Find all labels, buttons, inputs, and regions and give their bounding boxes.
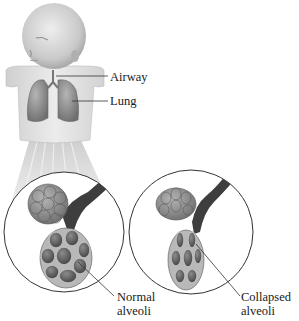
collapsed-alveoli-label-line1: Collapsed bbox=[241, 290, 291, 304]
normal-alveoli-label-line2: alveoli bbox=[117, 304, 155, 318]
collapsed-alveoli-label-line2: alveoli bbox=[241, 304, 291, 318]
normal-alveoli-label: Normal alveoli bbox=[117, 290, 155, 318]
collapsed-alveolar-sac-upper bbox=[156, 188, 196, 220]
inflated-alveolar-sac-upper bbox=[28, 184, 68, 224]
airway-label: Airway bbox=[110, 70, 148, 84]
illustration bbox=[0, 0, 299, 321]
infant-head bbox=[22, 3, 86, 69]
collapsed-alveolar-sac-lower bbox=[168, 230, 204, 290]
infant-body bbox=[6, 66, 104, 143]
normal-alveoli-label-line1: Normal bbox=[117, 290, 155, 304]
inflated-alveolar-sac-lower bbox=[40, 228, 92, 288]
normal-alveoli-panel bbox=[4, 172, 124, 296]
lung-label: Lung bbox=[110, 94, 136, 108]
collapsed-alveoli-panel bbox=[129, 170, 253, 296]
collapsed-alveoli-label: Collapsed alveoli bbox=[241, 290, 291, 318]
